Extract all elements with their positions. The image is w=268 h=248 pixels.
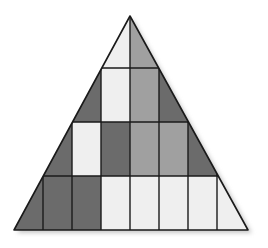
cell-row1-col1 — [9, 16, 130, 68]
cell-row4-col2 — [43, 176, 72, 230]
cell-row4-col7 — [188, 176, 217, 230]
cell-row4-col4 — [101, 176, 130, 230]
cell-row1-col2 — [130, 16, 253, 68]
shaded-triangle-figure — [0, 0, 268, 248]
cell-row3-col4 — [130, 122, 159, 176]
cell-row4-col1 — [9, 176, 43, 230]
cell-row4-col5 — [130, 176, 159, 230]
triangle-diagram — [0, 0, 268, 248]
cell-row4-col6 — [159, 176, 188, 230]
cell-row2-col2 — [101, 68, 130, 122]
cell-row3-col3 — [101, 122, 130, 176]
cell-row2-col3 — [130, 68, 159, 122]
cell-row3-col1 — [9, 122, 72, 176]
cell-row4-col3 — [72, 176, 101, 230]
cell-row3-col5 — [159, 122, 188, 176]
cell-row3-col2 — [72, 122, 101, 176]
